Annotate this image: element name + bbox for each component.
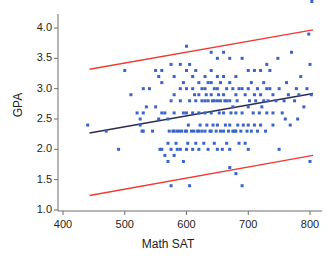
data-point (247, 69, 250, 72)
data-point (289, 124, 292, 127)
data-point (163, 154, 166, 157)
data-point (247, 148, 250, 151)
data-point (253, 93, 256, 96)
data-point (186, 142, 189, 145)
data-point (213, 99, 216, 102)
data-point (247, 124, 250, 127)
data-point (207, 148, 210, 151)
data-point (234, 130, 237, 133)
data-point (265, 111, 268, 114)
data-point (170, 184, 173, 187)
data-point (200, 87, 203, 90)
data-point (302, 105, 305, 108)
data-point (268, 69, 271, 72)
data-point (259, 93, 262, 96)
data-point (222, 111, 225, 114)
data-point (244, 93, 247, 96)
data-point (264, 130, 267, 133)
data-point (139, 124, 142, 127)
data-point (228, 57, 231, 60)
data-point (252, 111, 255, 114)
data-point (268, 87, 271, 90)
data-point (175, 142, 178, 145)
data-point (299, 75, 302, 78)
data-point (247, 105, 250, 108)
data-point (278, 148, 281, 151)
data-point (216, 124, 219, 127)
data-point (231, 105, 234, 108)
data-point (271, 111, 274, 114)
data-point (213, 87, 216, 90)
data-point (185, 130, 188, 133)
data-point (236, 124, 239, 127)
data-point (234, 93, 237, 96)
data-point (285, 81, 288, 84)
data-point (182, 81, 185, 84)
data-point (129, 93, 132, 96)
data-point (199, 124, 202, 127)
data-point (259, 124, 262, 127)
data-point (210, 93, 213, 96)
data-point (228, 148, 231, 151)
data-point (182, 160, 185, 163)
data-point (218, 111, 221, 114)
data-point (105, 130, 108, 133)
data-point (290, 51, 293, 54)
data-point (241, 87, 244, 90)
data-point (210, 81, 213, 84)
data-point (241, 57, 244, 60)
data-point (204, 130, 207, 133)
data-point (202, 142, 205, 145)
data-point (242, 124, 245, 127)
data-point (157, 118, 160, 121)
data-point (247, 87, 250, 90)
data-point (170, 63, 173, 66)
data-point (142, 87, 145, 90)
data-point (205, 124, 208, 127)
data-point (182, 111, 185, 114)
data-point (271, 124, 274, 127)
data-point (250, 130, 253, 133)
data-point (197, 93, 200, 96)
data-point (191, 87, 194, 90)
y-tick-label: 2.0 (20, 142, 52, 154)
data-point (197, 111, 200, 114)
data-point (173, 111, 176, 114)
data-point (281, 111, 284, 114)
data-point (262, 81, 265, 84)
x-tick-label: 600 (167, 218, 207, 230)
data-point (219, 99, 222, 102)
data-point (250, 81, 253, 84)
data-point (173, 154, 176, 157)
data-point (166, 142, 169, 145)
data-point (309, 160, 312, 163)
data-point (216, 148, 219, 151)
data-point (256, 87, 259, 90)
x-axis-title: Math SAT (0, 237, 336, 251)
data-point (166, 160, 169, 163)
data-point (234, 75, 237, 78)
data-point (262, 99, 265, 102)
data-point (244, 142, 247, 145)
data-point (246, 130, 249, 133)
data-point (179, 148, 182, 151)
x-tick-label: 800 (290, 218, 330, 230)
data-point (180, 130, 183, 133)
data-point (170, 99, 173, 102)
data-point (216, 57, 219, 60)
data-point (225, 99, 228, 102)
data-point (205, 93, 208, 96)
data-point (248, 99, 251, 102)
data-point (194, 142, 197, 145)
data-point (271, 93, 274, 96)
data-point (160, 148, 163, 151)
data-point (207, 81, 210, 84)
data-point (166, 118, 169, 121)
y-tick-label: 3.5 (20, 51, 52, 63)
data-point (204, 99, 207, 102)
data-point (168, 130, 171, 133)
data-point (275, 99, 278, 102)
data-point (229, 111, 232, 114)
data-point (192, 130, 195, 133)
data-point (234, 111, 237, 114)
